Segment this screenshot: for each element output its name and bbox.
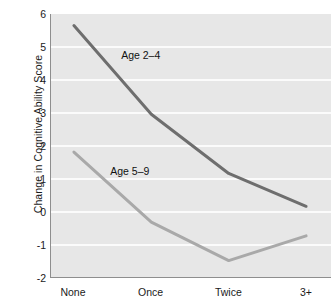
x-tick-label: Once bbox=[138, 286, 163, 298]
y-tick-label: -1 bbox=[24, 239, 46, 251]
plot-area bbox=[50, 14, 331, 278]
y-axis-tick-labels: 6543210-1-2 bbox=[22, 0, 46, 303]
y-tick-label: 2 bbox=[24, 140, 46, 152]
line-chart: Change in Cognitive Ability Score 654321… bbox=[0, 0, 331, 303]
y-tick-label: -2 bbox=[24, 272, 46, 284]
y-tick-label: 4 bbox=[24, 74, 46, 86]
x-tick-label: None bbox=[60, 286, 85, 298]
y-tick-label: 5 bbox=[24, 41, 46, 53]
series-line-1 bbox=[74, 152, 306, 260]
y-tick-label: 0 bbox=[24, 206, 46, 218]
series-label-0: Age 2–4 bbox=[121, 49, 160, 61]
y-tick-label: 1 bbox=[24, 173, 46, 185]
x-tick-label: Twice bbox=[215, 286, 242, 298]
series-lines bbox=[51, 14, 331, 277]
series-label-1: Age 5–9 bbox=[110, 165, 149, 177]
series-line-0 bbox=[74, 26, 306, 207]
y-tick-label: 3 bbox=[24, 107, 46, 119]
y-tick-label: 6 bbox=[24, 8, 46, 20]
x-tick-label: 3+ bbox=[300, 286, 312, 298]
